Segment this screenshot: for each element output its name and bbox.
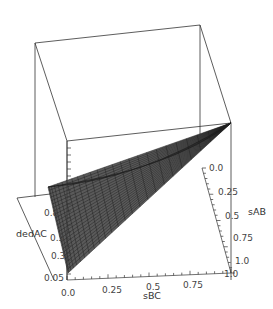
x-axis	[67, 269, 231, 280]
x-tick-0.0: 0.0	[61, 288, 76, 298]
x-axis-title: sBC	[143, 290, 161, 301]
z-tick-0.3: 0.3	[51, 251, 65, 261]
z-tick-0.5: 0.5	[50, 233, 64, 243]
x-tick-1.0: 1.0	[224, 269, 239, 279]
y-tick-1.0: 1.0	[235, 256, 250, 266]
z-tick-0.05: 0.05	[44, 273, 64, 283]
surface-plot-3d: 0.8 0.5 0.3 0.05 dedAC 0.0 0.25 0.5 0.75…	[0, 0, 273, 309]
y-tick-0.25: 0.25	[218, 187, 238, 197]
z-tick-0.8: 0.8	[44, 208, 59, 218]
y-tick-0.5: 0.5	[225, 211, 239, 221]
y-tick-0.0: 0.0	[209, 163, 224, 173]
surface-mesh	[48, 123, 231, 273]
z-axis-title: dedAC	[16, 228, 47, 239]
y-axis-title: sAB	[248, 206, 266, 217]
x-tick-0.25: 0.25	[102, 285, 122, 295]
x-tick-0.75: 0.75	[183, 280, 203, 290]
y-tick-0.75: 0.75	[233, 233, 253, 243]
